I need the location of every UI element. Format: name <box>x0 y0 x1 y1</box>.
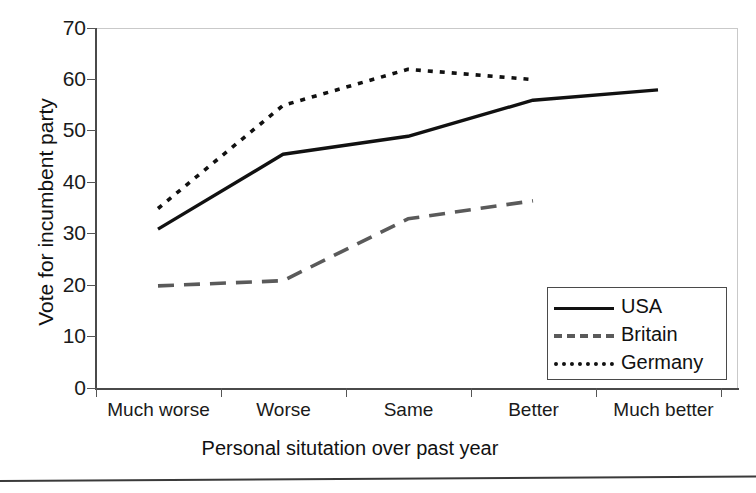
chart-figure: 70 60 50 40 30 20 10 0 Much worse Worse … <box>0 0 756 493</box>
series-line-usa <box>158 90 658 229</box>
series-line-britain <box>158 201 533 286</box>
series-line-germany <box>158 69 533 208</box>
legend-swatch-dashed-icon <box>554 334 614 338</box>
legend-label-germany: Germany <box>621 352 703 372</box>
legend-label-usa: USA <box>621 296 662 316</box>
series-layer <box>0 0 756 493</box>
legend-swatch-solid-icon <box>554 307 614 310</box>
legend-item-usa: USA <box>554 292 726 320</box>
legend: USA Britain Germany <box>547 287 727 380</box>
legend-item-germany: Germany <box>554 348 726 376</box>
legend-item-britain: Britain <box>554 320 726 348</box>
legend-label-britain: Britain <box>621 324 678 344</box>
legend-swatch-dotted-icon <box>554 362 614 366</box>
